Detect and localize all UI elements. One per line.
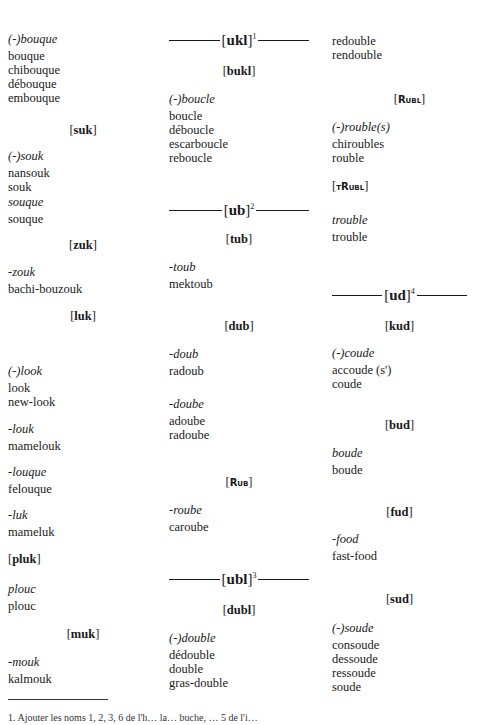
word: déboucle	[169, 123, 228, 137]
phonetic-subheading-rubl: [Rubl]	[332, 92, 487, 107]
group-heading: trouble	[332, 213, 368, 227]
word: ressoude	[332, 666, 379, 680]
group-heading: (-)coude	[332, 346, 392, 360]
word: nansouk	[8, 166, 50, 180]
entry-group-trouble: trouble trouble	[332, 213, 368, 244]
phonetic-subheading-trubl: [tRubl]	[332, 179, 368, 194]
footnote: 1. Ajouter les noms 1, 2, 3, 6 de l'h… l…	[8, 711, 258, 725]
heading-rule	[169, 210, 222, 211]
entry-group-boucle: (-)boucle boucle déboucle escarboucle re…	[169, 92, 228, 165]
word: adoube	[169, 414, 209, 428]
heading-rule	[256, 210, 309, 211]
word: mamelouk	[8, 439, 61, 453]
heading-rule	[258, 579, 309, 580]
group-heading: -louque	[8, 465, 52, 479]
entry-group-roube: -roube caroube	[169, 503, 209, 534]
group-heading: (-)double	[169, 631, 228, 645]
word: reboucle	[169, 151, 228, 165]
entry-group-look: (-)look look new-look	[8, 364, 55, 409]
phonetic-subheading-dub: [dub]	[169, 319, 309, 333]
group-heading: -roube	[169, 503, 209, 517]
word: kalmouk	[8, 672, 52, 686]
group-heading: (-)boucle	[169, 92, 228, 106]
word: radoub	[169, 364, 204, 378]
word: escarboucle	[169, 137, 228, 151]
entry-group-food: -food fast-food	[332, 532, 377, 563]
group-heading: (-)bouque	[8, 32, 60, 46]
heading-rule	[169, 40, 220, 41]
entry-group-toub: -toub mektoub	[169, 260, 213, 291]
entry-group-plouc: plouc plouc	[8, 582, 36, 613]
heading-rule	[332, 295, 382, 296]
word: mektoub	[169, 277, 213, 291]
word: look	[8, 381, 55, 395]
word: souque	[8, 212, 43, 226]
entry-group-louk: -louk mamelouk	[8, 422, 61, 453]
entry-group-zouk: -zouk bachi-bouzouk	[8, 265, 82, 296]
group-heading: -toub	[169, 260, 213, 274]
entry-group-redouble-cont: redouble rendouble	[332, 34, 382, 62]
entry-group-doub: -doub radoub	[169, 347, 204, 378]
group-heading: -food	[332, 532, 377, 546]
word: bouque	[8, 49, 60, 63]
group-heading: -zouk	[8, 265, 82, 279]
entry-group-souk: (-)souk nansouk souk	[8, 149, 50, 194]
word: double	[169, 662, 228, 676]
word: dédouble	[169, 648, 228, 662]
entry-group-louque: -louque felouque	[8, 465, 52, 496]
entry-group-bouque: (-)bouque bouque chibouque débouque embo…	[8, 32, 60, 105]
group-heading: (-)soude	[332, 621, 379, 635]
phonetic-subheading-bud: [bud]	[332, 418, 467, 432]
heading-rule	[417, 295, 467, 296]
phonetic-subheading-bukl: [bukl]	[169, 64, 309, 78]
group-heading: (-)look	[8, 364, 55, 378]
phonetic-subheading-pluk: [pluk]	[8, 552, 41, 566]
section-heading-ubl: [ubl]3	[169, 569, 309, 586]
entry-group-double: (-)double dédouble double gras-double	[169, 631, 228, 690]
word: coude	[332, 377, 392, 391]
group-heading: plouc	[8, 582, 36, 596]
word: embouque	[8, 91, 60, 105]
group-heading: -mouk	[8, 655, 52, 669]
word: débouque	[8, 77, 60, 91]
word: boude	[332, 463, 363, 477]
entry-group-doube: -doube adoube radoube	[169, 397, 209, 442]
entry-group-rouble: (-)rouble(s) chiroubles rouble	[332, 120, 390, 165]
group-heading: -luk	[8, 508, 55, 522]
group-heading: -doub	[169, 347, 204, 361]
phonetic-subheading-dubl: [dubl]	[169, 603, 309, 617]
word: radoube	[169, 428, 209, 442]
phonetic-subheading-rub: [Rub]	[169, 475, 309, 490]
word: gras-double	[169, 676, 228, 690]
entry-group-mouk: -mouk kalmouk	[8, 655, 52, 686]
word: felouque	[8, 482, 52, 496]
word: chibouque	[8, 63, 60, 77]
footnote-rule	[8, 699, 108, 700]
word: mameluk	[8, 525, 55, 539]
group-heading: boude	[332, 446, 363, 460]
section-heading-ub: [ub]2	[169, 200, 309, 217]
section-heading-ukl: [ukl]1	[169, 30, 309, 47]
word: trouble	[332, 230, 368, 244]
word: dessoude	[332, 652, 379, 666]
phonetic-subheading-fud: [fud]	[332, 505, 467, 519]
word: caroube	[169, 520, 209, 534]
phonetic-subheading-kud: [kud]	[332, 319, 467, 333]
entry-group-boude: boude boude	[332, 446, 363, 477]
phonetic-subheading-sud: [sud]	[332, 592, 467, 606]
entry-group-soude: (-)soude consoude dessoude ressoude soud…	[332, 621, 379, 694]
phonetic-subheading-suk: [suk]	[8, 123, 158, 137]
group-heading: (-)rouble(s)	[332, 120, 390, 134]
word: chiroubles	[332, 137, 390, 151]
word: accoude (s')	[332, 363, 392, 377]
heading-rule	[258, 40, 309, 41]
word: rendouble	[332, 48, 382, 62]
group-heading: souque	[8, 195, 43, 209]
entry-group-luk: -luk mameluk	[8, 508, 55, 539]
word: redouble	[332, 34, 382, 48]
phonetic-subheading-zuk: [zuk]	[8, 238, 158, 252]
word: bachi-bouzouk	[8, 282, 82, 296]
word: plouc	[8, 599, 36, 613]
entry-group-souque: souque souque	[8, 195, 43, 226]
group-heading: (-)souk	[8, 149, 50, 163]
